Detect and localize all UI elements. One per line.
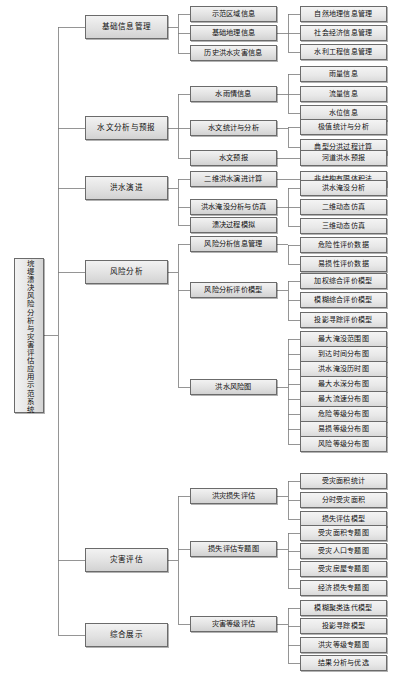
- level2-node-flood-inundation-analysis-simulation[interactable]: 洪水淹没分析与仿真: [190, 199, 277, 215]
- level3-node-fuzzy-clustering-iteration-model[interactable]: 模糊聚类迭代模型: [300, 600, 387, 616]
- level3-node-vulnerability-evaluation-data[interactable]: 易损性评价数据: [300, 256, 387, 272]
- level3-node-flood-disaster-grade-thematic-map[interactable]: 洪灾等级专题图: [300, 637, 387, 653]
- level3-node-economic-loss-thematic-map[interactable]: 经济损失专题图: [300, 580, 387, 596]
- level3-node-flood-inundation-analysis[interactable]: 洪水淹没分析: [300, 180, 387, 196]
- level2-node-2d-flood-routing-calculation[interactable]: 二维洪水演进计算: [190, 171, 277, 187]
- root-node-system[interactable]: 垸堤溃决风险分析与灾害评估应用示范系统: [14, 258, 44, 413]
- level3-node-3d-dynamic-simulation[interactable]: 三维动态仿真: [300, 218, 387, 234]
- level2-node-risk-analysis-evaluation-model[interactable]: 风险分析评价模型: [190, 282, 277, 298]
- level1-node-flood-routing[interactable]: 洪水演进: [85, 176, 168, 200]
- level3-node-max-inundation-extent-map[interactable]: 最大淹没范围图: [300, 331, 387, 347]
- level3-node-water-conservancy-project-info-management[interactable]: 水利工程信息管理: [300, 44, 387, 60]
- level2-node-loss-assessment-thematic-map[interactable]: 损失评估专题图: [190, 541, 277, 557]
- level3-node-arrival-time-distribution-map[interactable]: 到达时间分布图: [300, 346, 387, 362]
- level3-node-discharge-info[interactable]: 流量信息: [300, 86, 387, 102]
- level2-node-flood-loss-assessment[interactable]: 洪灾损失评估: [190, 488, 277, 504]
- level2-node-historical-flood-disaster-info[interactable]: 历史洪水灾害信息: [190, 45, 277, 61]
- level3-node-hazard-evaluation-data[interactable]: 危险性评价数据: [300, 237, 387, 253]
- level3-node-result-analysis-optimization[interactable]: 结果分析与优选: [300, 655, 387, 671]
- level2-node-risk-analysis-info-management[interactable]: 风险分析信息管理: [190, 236, 277, 252]
- level3-node-affected-housing-thematic-map[interactable]: 受灾房屋专题图: [300, 561, 387, 577]
- level3-node-social-economic-info-management[interactable]: 社会经济信息管理: [300, 25, 387, 41]
- system-architecture-diagram: 垸堤溃决风险分析与灾害评估应用示范系统 基础信息管理 水文分析与预报 洪水演进 …: [0, 0, 393, 684]
- level1-node-basic-info-management[interactable]: 基础信息管理: [85, 15, 168, 39]
- level3-node-vulnerability-grade-distribution-map[interactable]: 易损等级分布图: [300, 421, 387, 437]
- level2-node-basic-geographic-info[interactable]: 基础地理信息: [190, 25, 277, 41]
- level2-node-hydrological-statistics-analysis[interactable]: 水文统计与分析: [190, 120, 277, 136]
- level1-node-hydrological-analysis-forecast[interactable]: 水文分析与预报: [85, 116, 168, 140]
- level3-node-weighted-comprehensive-evaluation-model[interactable]: 加权综合评价模型: [300, 273, 387, 289]
- level3-node-2d-dynamic-simulation[interactable]: 二维动态仿真: [300, 199, 387, 215]
- level3-node-max-flow-velocity-distribution-map[interactable]: 最大流速分布图: [300, 391, 387, 407]
- level3-node-projection-pursuit-model[interactable]: 投影寻踪模型: [300, 618, 387, 634]
- level3-node-natural-geography-info-management[interactable]: 自然地理信息管理: [300, 6, 387, 22]
- level3-node-time-phased-affected-area[interactable]: 分时受灾面积: [300, 492, 387, 508]
- level3-node-rainfall-info[interactable]: 雨量信息: [300, 66, 387, 82]
- level3-node-river-flood-forecast[interactable]: 河道洪水预报: [300, 150, 387, 166]
- level2-node-rain-water-regime-info[interactable]: 水雨情信息: [190, 86, 277, 102]
- level3-node-hazard-grade-distribution-map[interactable]: 危险等级分布图: [300, 406, 387, 422]
- level2-node-breach-process-simulation[interactable]: 溃决过程模拟: [190, 217, 277, 233]
- level1-node-disaster-assessment[interactable]: 灾害评估: [85, 548, 168, 572]
- level3-node-flood-inundation-duration-map[interactable]: 洪水淹没历时图: [300, 361, 387, 377]
- level3-node-risk-grade-distribution-map[interactable]: 风险等级分布图: [300, 436, 387, 452]
- level3-node-affected-area-thematic-map[interactable]: 受灾面积专题图: [300, 525, 387, 541]
- level2-node-demo-area-info[interactable]: 示范区域信息: [190, 6, 277, 22]
- level2-node-hydrological-forecast[interactable]: 水文预报: [190, 150, 277, 166]
- level3-node-max-water-depth-distribution-map[interactable]: 最大水深分布图: [300, 376, 387, 392]
- level3-node-extreme-value-statistics-analysis[interactable]: 极值统计与分析: [300, 119, 387, 135]
- level3-node-affected-area-statistics[interactable]: 受灾面积统计: [300, 473, 387, 489]
- level1-node-integrated-display[interactable]: 综合展示: [85, 623, 168, 647]
- level3-node-projection-pursuit-evaluation-model[interactable]: 投影寻踪评价模型: [300, 312, 387, 328]
- level1-node-risk-analysis[interactable]: 风险分析: [85, 260, 168, 284]
- level3-node-fuzzy-comprehensive-evaluation-model[interactable]: 模糊综合评价模型: [300, 292, 387, 308]
- level2-node-flood-risk-map[interactable]: 洪水风险图: [190, 379, 277, 395]
- level2-node-disaster-grade-assessment[interactable]: 灾害等级评估: [190, 616, 277, 632]
- level3-node-affected-population-thematic-map[interactable]: 受灾人口专题图: [300, 543, 387, 559]
